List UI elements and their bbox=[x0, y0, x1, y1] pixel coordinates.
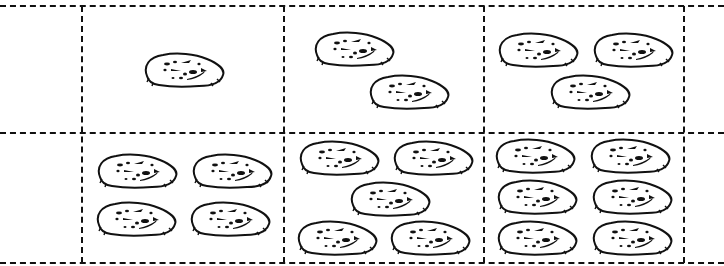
grid-vertical-line bbox=[81, 6, 83, 263]
grid-vertical-line bbox=[683, 6, 685, 263]
cookie-icon bbox=[296, 138, 382, 178]
cookie-icon bbox=[311, 29, 397, 69]
cookie-icon bbox=[494, 218, 580, 258]
cookie-icon bbox=[366, 72, 452, 112]
cookie-icon bbox=[187, 199, 273, 239]
cookie-icon bbox=[141, 50, 227, 90]
cookie-icon bbox=[492, 136, 578, 176]
cookie-icon bbox=[347, 179, 433, 219]
cookie-icon bbox=[589, 177, 675, 217]
cookie-icon bbox=[94, 151, 180, 191]
grid-horizontal-line bbox=[0, 5, 724, 7]
grid-vertical-line bbox=[283, 6, 285, 263]
cookie-icon bbox=[590, 30, 676, 70]
cookie-icon bbox=[494, 177, 580, 217]
cookie-icon bbox=[93, 199, 179, 239]
cookie-icon bbox=[390, 138, 476, 178]
cookie-icon bbox=[189, 151, 275, 191]
cookie-icon bbox=[294, 218, 380, 258]
cookie-icon bbox=[387, 218, 473, 258]
cookie-icon bbox=[587, 136, 673, 176]
cookie-icon bbox=[589, 218, 675, 258]
grid-horizontal-line bbox=[0, 262, 724, 264]
grid-vertical-line bbox=[483, 6, 485, 263]
cookie-icon bbox=[547, 72, 633, 112]
grid-horizontal-line bbox=[0, 132, 724, 134]
cookie-icon bbox=[495, 30, 581, 70]
